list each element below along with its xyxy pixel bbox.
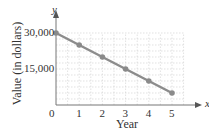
x-tick-label: 0 — [49, 107, 55, 119]
data-point — [76, 42, 82, 48]
x-tick-label: 3 — [123, 107, 129, 119]
y-tick-label: 30,000 — [24, 26, 54, 38]
x-tick-label: 4 — [146, 107, 152, 119]
data-point — [146, 78, 152, 84]
y-tick-label: 15,000 — [24, 62, 54, 74]
y-axis-label: Value (in dollars) — [10, 9, 25, 119]
data-point — [169, 90, 175, 96]
y-axis-var: y — [52, 3, 57, 15]
data-point — [100, 54, 106, 60]
x-axis-var: x — [205, 97, 209, 109]
x-tick-label: 2 — [99, 107, 105, 119]
x-tick-label: 5 — [169, 107, 175, 119]
data-point — [123, 66, 129, 72]
chart: x y Value (in dollars) Year 012345 15,00… — [0, 0, 209, 135]
x-tick-label: 1 — [76, 107, 82, 119]
x-axis-label: Year — [116, 117, 138, 132]
x-axis-arrow-icon — [195, 102, 202, 108]
